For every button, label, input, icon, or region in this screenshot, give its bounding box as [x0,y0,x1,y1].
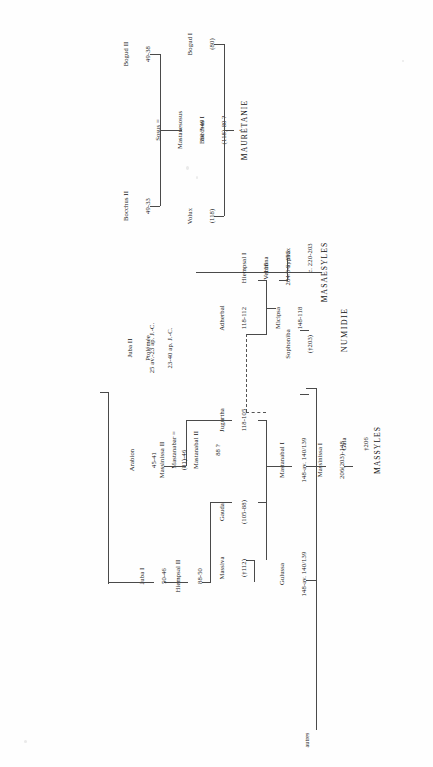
node-bocchus-ii: Bocchus II 49-33 [107,161,166,251]
connector-jugurtha-branch [258,420,267,421]
connector-bocchus-stem [224,130,234,131]
spine-autres [316,580,317,730]
connector-juba-i-stem [108,582,154,583]
node-gulussa: Gulussa 148-av. 140/139 [263,511,322,637]
node-bogud-i: Bogud I (80) [171,0,230,88]
node-bogud-ii: Bogud II 49-38 [107,9,166,99]
heading-autres: autres [291,710,324,767]
connector-juba-ii-branch [100,392,109,393]
connector-micipsa-branch [306,388,316,389]
node-adherbal: Adherbal 118-112 [203,271,262,365]
node-volux: Volux (118) [171,172,230,260]
node-juba-i: Juba I 50-46 [123,531,182,621]
scan-artifact [402,60,404,62]
connector-gauda-stem [210,502,232,503]
connector-massinissa-sophoniba [300,394,309,395]
connector-juba-i-children [108,392,109,584]
chart-canvas: MAURÉTANIE Bocchus I (118)-80 ? Bogud I … [0,0,433,767]
node-arabion: Arabion 45-41 [113,415,172,505]
scan-artifact [186,166,189,170]
node-mastanabal-i: Mastanabal I 148-av. 140/139 [263,397,322,523]
connector-sosus-stem [160,130,182,131]
connector-mastanabal-stem [266,466,292,467]
node-ptolemee: Ptolémée 23-40 ap. J.-C. [129,293,188,403]
scan-artifact [24,740,27,743]
node-micipsa: Micipsa 148-118 [259,271,318,365]
connector-mastanabal-children [266,420,267,560]
scan-artifact [196,176,198,179]
